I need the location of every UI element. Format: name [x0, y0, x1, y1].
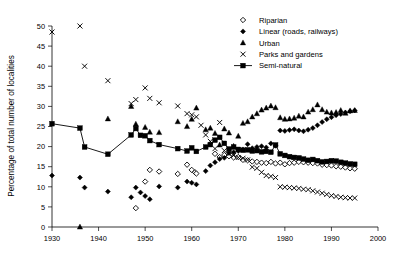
data-point-filled-square: [231, 145, 236, 150]
y-tick-label: 25: [37, 122, 45, 131]
legend-label: Linear (roads, railways): [259, 27, 338, 36]
y-tick-label: 50: [37, 22, 45, 31]
y-tick-label: 20: [37, 142, 45, 151]
data-point-filled-square: [301, 157, 306, 162]
data-point-filled-square: [255, 148, 260, 153]
data-point-filled-square: [143, 133, 148, 138]
data-point-filled-square: [343, 161, 348, 166]
y-tick-label: 30: [37, 102, 45, 111]
y-axis-title: Percentage of total number of localities: [7, 55, 16, 197]
data-point-filled-square: [315, 158, 320, 163]
data-point-filled-square: [105, 152, 110, 157]
legend-label: Urban: [259, 39, 280, 48]
data-point-filled-square: [310, 157, 315, 162]
data-point-filled-square: [147, 138, 152, 143]
data-point-filled-square: [278, 151, 283, 156]
data-point-filled-square: [227, 147, 232, 152]
y-tick-label: 15: [37, 162, 45, 171]
data-point-filled-square: [320, 159, 325, 164]
y-tick-label: 5: [41, 203, 45, 212]
x-tick-label: 1930: [44, 234, 60, 243]
legend-label: Semi-natural: [259, 61, 302, 70]
y-tick-label: 35: [37, 82, 45, 91]
chart-background: [0, 0, 394, 257]
data-point-filled-square: [296, 155, 301, 160]
data-point-filled-square: [292, 155, 297, 160]
data-point-filled-square: [236, 147, 241, 152]
data-point-filled-square: [329, 158, 334, 163]
data-point-filled-square: [129, 133, 134, 138]
data-point-filled-square: [157, 142, 162, 147]
data-point-filled-square: [348, 161, 353, 166]
x-tick-label: 1990: [323, 234, 339, 243]
data-point-filled-square: [241, 63, 246, 68]
legend-label: Parks and gardens: [259, 50, 323, 59]
data-point-filled-square: [78, 126, 83, 131]
legend-label: Riparian: [259, 16, 287, 25]
data-point-filled-square: [268, 150, 273, 155]
y-tick-label: 40: [37, 62, 45, 71]
data-point-filled-square: [324, 159, 329, 164]
x-tick-label: 1940: [90, 234, 106, 243]
data-point-filled-square: [50, 121, 55, 126]
data-point-filled-square: [203, 145, 208, 150]
data-point-filled-square: [241, 148, 246, 153]
data-point-filled-square: [352, 162, 357, 167]
x-tick-label: 1960: [183, 234, 199, 243]
data-point-filled-square: [82, 145, 87, 150]
y-tick-label: 10: [37, 183, 45, 192]
x-tick-label: 1950: [137, 234, 153, 243]
data-point-filled-square: [222, 141, 227, 146]
data-point-filled-square: [213, 138, 218, 143]
x-tick-label: 1980: [277, 234, 293, 243]
y-axis-title-label: Percentage of total number of localities: [7, 55, 16, 197]
x-tick-label: 2000: [370, 234, 386, 243]
data-point-filled-square: [185, 149, 190, 154]
data-point-filled-square: [334, 159, 339, 164]
percentage-of-localities-scatter-chart: Percentage of total number of localities…: [0, 0, 394, 257]
data-point-filled-square: [208, 142, 213, 147]
data-point-filled-square: [282, 153, 287, 158]
y-tick-label: 0: [41, 223, 45, 232]
data-point-filled-square: [273, 143, 278, 148]
data-point-filled-square: [175, 146, 180, 151]
data-point-filled-square: [245, 147, 250, 152]
data-point-filled-square: [250, 149, 255, 154]
data-point-filled-square: [338, 160, 343, 165]
x-tick-label: 1970: [230, 234, 246, 243]
data-point-filled-square: [189, 145, 194, 150]
y-tick-label: 45: [37, 42, 45, 51]
data-point-filled-square: [217, 135, 222, 140]
data-point-filled-square: [287, 154, 292, 159]
data-point-filled-square: [264, 149, 269, 154]
data-point-filled-square: [259, 149, 264, 154]
chart-container: Percentage of total number of localities…: [0, 0, 394, 257]
data-point-filled-square: [194, 149, 199, 154]
data-point-filled-square: [306, 158, 311, 163]
data-point-filled-square: [133, 126, 138, 131]
data-point-filled-square: [138, 133, 143, 138]
